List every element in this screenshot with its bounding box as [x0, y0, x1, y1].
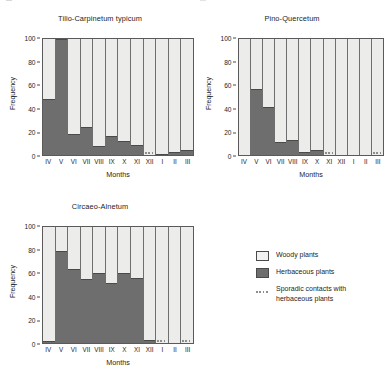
x-tick-label: VII	[275, 158, 287, 165]
legend-swatch-herbaceous-icon	[256, 268, 269, 278]
y-axis: 100 80 60 40 20 0	[0, 38, 40, 156]
y-axis: 100 80 60 40 20 0	[0, 226, 40, 344]
y-tick-mark	[233, 61, 236, 62]
y-tick-mark	[37, 226, 40, 227]
legend-item-woody: Woody plants	[256, 250, 318, 261]
x-tick-label: I	[156, 158, 169, 165]
x-tick-label: VI	[262, 158, 274, 165]
y-tick-mark	[37, 156, 40, 157]
x-tick-label: VI	[67, 158, 80, 165]
y-tick: 80	[28, 246, 40, 253]
x-tick-label: XII	[335, 158, 347, 165]
bar-segment-herbaceous	[68, 269, 80, 343]
y-tick-label: 100	[220, 35, 231, 42]
bar-column	[131, 39, 144, 155]
y-tick: 60	[28, 270, 40, 277]
y-axis-label: Frequency	[9, 252, 16, 312]
y-tick-label: 40	[28, 105, 35, 112]
y-tick-mark	[233, 38, 236, 39]
y-tick-mark	[233, 85, 236, 86]
bar-segment-herbaceous	[311, 150, 322, 155]
chart-title: Circaeo-Alnetum	[0, 202, 200, 211]
y-tick-label: 0	[32, 341, 36, 348]
bar-segment-herbaceous	[56, 39, 68, 155]
y-axis: 100 80 60 40 20 0	[196, 38, 236, 156]
bar-column	[131, 227, 144, 343]
x-tick-label: XI	[323, 158, 335, 165]
x-tick-label: VIII	[287, 158, 299, 165]
y-tick: 40	[28, 105, 40, 112]
bar-segment-herbaceous	[263, 107, 274, 155]
x-tick-label: I	[156, 346, 169, 353]
x-axis-ticks: IVVVIVIIVIIIIXXXIXIIIIIIII	[42, 346, 194, 353]
bar-column	[181, 39, 193, 155]
chart-panel-circaeo-alnetum: Circaeo-Alnetum 100 80 60 40 20 0 Freque…	[0, 196, 200, 373]
y-tick: 60	[224, 82, 236, 89]
sporadic-contact-marker	[325, 152, 334, 154]
y-tick: 20	[28, 129, 40, 136]
bar-segment-herbaceous	[43, 341, 55, 343]
bar-segment-herbaceous	[275, 142, 286, 155]
y-tick-label: 80	[28, 58, 35, 65]
legend: Woody plants Herbaceous plants Sporadic …	[256, 250, 388, 310]
chart-title: Pino-Quercetum	[196, 14, 388, 23]
bar-column	[181, 227, 193, 343]
x-tick-label: III	[181, 346, 194, 353]
bar-column	[251, 39, 263, 155]
y-tick: 40	[224, 105, 236, 112]
scan-artifact-line	[0, 0, 388, 1]
bar-segment-herbaceous	[144, 340, 156, 343]
y-tick: 0	[32, 341, 40, 348]
bar-segment-herbaceous	[93, 273, 105, 343]
sporadic-contact-marker	[157, 340, 167, 342]
x-tick-label: IV	[42, 158, 55, 165]
bar-column	[336, 39, 348, 155]
y-tick: 100	[24, 223, 40, 230]
x-tick-label: V	[250, 158, 262, 165]
bar-column	[56, 227, 69, 343]
y-tick: 20	[224, 129, 236, 136]
bar-segment-herbaceous	[68, 134, 80, 155]
x-tick-label: II	[360, 158, 372, 165]
plot-area	[238, 38, 384, 156]
x-tick-label: I	[348, 158, 360, 165]
x-tick-label: II	[169, 346, 182, 353]
x-tick-label: VIII	[93, 158, 106, 165]
x-axis-label: Months	[42, 170, 194, 179]
y-tick-mark	[233, 156, 236, 157]
y-tick: 100	[24, 35, 40, 42]
y-tick-label: 0	[32, 153, 36, 160]
bar-column	[169, 227, 182, 343]
bar-segment-herbaceous	[181, 150, 193, 155]
y-tick-mark	[233, 109, 236, 110]
y-tick-label: 100	[24, 223, 35, 230]
y-tick-mark	[37, 61, 40, 62]
bar-column	[68, 227, 81, 343]
x-tick-label: XII	[143, 158, 156, 165]
bar-segment-herbaceous	[81, 279, 93, 343]
bar-segment-herbaceous	[299, 152, 310, 155]
x-axis-label: Months	[238, 170, 384, 179]
bar-column	[372, 39, 383, 155]
bar-column	[118, 227, 131, 343]
bar-segment-herbaceous	[287, 140, 298, 155]
bar-segment-herbaceous	[131, 278, 143, 343]
bar-column	[275, 39, 287, 155]
y-axis-label: Frequency	[9, 64, 16, 124]
y-tick-mark	[37, 109, 40, 110]
legend-item-herbaceous: Herbaceous plants	[256, 267, 334, 278]
y-tick-mark	[37, 249, 40, 250]
y-tick: 60	[28, 82, 40, 89]
sporadic-contact-marker	[373, 152, 382, 154]
bar-column	[169, 39, 182, 155]
x-tick-label: V	[55, 346, 68, 353]
bar-column	[93, 227, 106, 343]
bar-column	[324, 39, 336, 155]
y-tick-mark	[37, 85, 40, 86]
bar-column	[156, 39, 169, 155]
bar-column	[144, 227, 157, 343]
x-tick-label: III	[372, 158, 384, 165]
bar-column	[81, 227, 94, 343]
bar-column	[106, 227, 119, 343]
bar-column	[93, 39, 106, 155]
